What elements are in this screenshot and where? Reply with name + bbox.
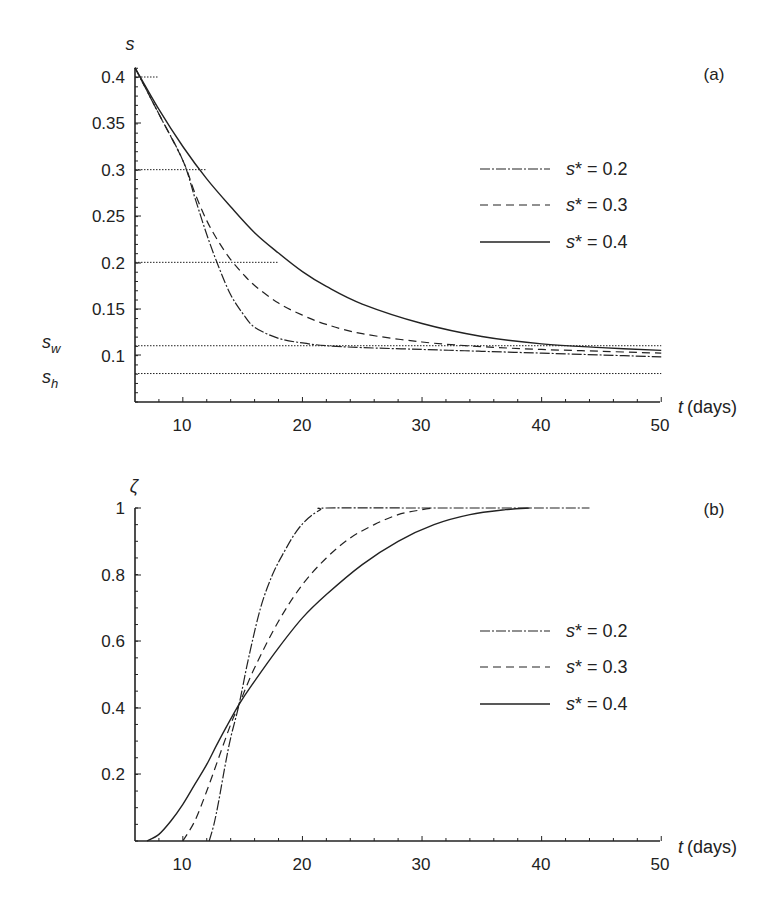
y-axis-label-a: s <box>126 34 135 54</box>
y-tick-label: 0.2 <box>101 765 125 784</box>
y-tick-label: 0.3 <box>101 161 125 180</box>
figure: s (a) 0.4 0.35 0.3 0.25 0.2 0.15 0.1 sw … <box>0 0 776 912</box>
legend-entry: s* = 0.2 <box>566 159 628 179</box>
panel-a: s (a) 0.4 0.35 0.3 0.25 0.2 0.15 0.1 sw … <box>42 34 737 435</box>
y-tick-label: 0.6 <box>101 632 125 651</box>
x-tick-label: 40 <box>532 416 551 435</box>
y-tick-label: 1 <box>116 499 125 518</box>
x-tick-label: 20 <box>293 416 312 435</box>
y-tick-label: 0.8 <box>101 566 125 585</box>
legend-entry: s* = 0.3 <box>566 195 628 215</box>
x-tick-label: 30 <box>412 855 431 874</box>
sw-label: sw <box>42 332 62 356</box>
y-tick-label: 0.25 <box>92 207 125 226</box>
y-tick-label: 0.4 <box>101 68 125 87</box>
y-tick-label: 0.2 <box>101 254 125 273</box>
x-tick-labels-b: 10 20 30 40 50 <box>173 855 670 874</box>
y-tick-label: 0.1 <box>101 347 125 366</box>
x-tick-label: 30 <box>412 416 431 435</box>
x-tick-label: 10 <box>173 416 192 435</box>
x-axis-label-a: t(days) <box>678 397 737 417</box>
x-tick-label: 40 <box>532 855 551 874</box>
curve-dash-dot <box>209 508 589 841</box>
legend-entry: s* = 0.3 <box>566 657 628 677</box>
y-tick-labels-b: 1 0.8 0.6 0.4 0.2 <box>101 499 125 784</box>
x-tick-labels-a: 10 20 30 40 50 <box>173 416 670 435</box>
x-tick-label: 20 <box>293 855 312 874</box>
panel-label-a: (a) <box>704 65 725 84</box>
curves-b <box>147 508 590 841</box>
legend-entry: s* = 0.4 <box>566 232 628 252</box>
x-axis-label-b: t(days) <box>678 837 737 857</box>
reference-lines-a <box>135 77 661 374</box>
panel-b: ζ (b) 1 0.8 0.6 0.4 0.2 10 20 30 40 50 t… <box>101 476 737 874</box>
sh-label: sh <box>42 367 58 391</box>
y-axis-label-b: ζ <box>130 476 140 496</box>
y-tick-label: 0.35 <box>92 114 125 133</box>
legend-b: s* = 0.2 s* = 0.3 s* = 0.4 <box>480 621 628 714</box>
x-tick-label: 50 <box>651 855 670 874</box>
panel-label-b: (b) <box>704 500 725 519</box>
curve-solid <box>147 508 530 841</box>
y-tick-label: 0.4 <box>101 699 125 718</box>
x-tick-label: 50 <box>651 416 670 435</box>
legend-entry: s* = 0.4 <box>566 694 628 714</box>
legend-a: s* = 0.2 s* = 0.3 s* = 0.4 <box>480 159 628 252</box>
x-tick-label: 10 <box>173 855 192 874</box>
legend-entry: s* = 0.2 <box>566 621 628 641</box>
y-tick-label: 0.15 <box>92 300 125 319</box>
y-tick-labels-a: 0.4 0.35 0.3 0.25 0.2 0.15 0.1 <box>92 68 125 366</box>
